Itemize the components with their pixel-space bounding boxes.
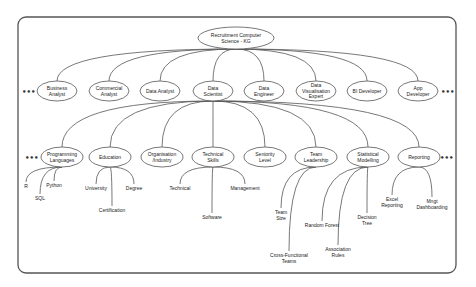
node-root-recruitment-computer-science-kg[interactable]: Recruitment ComputerScience - KG xyxy=(198,27,274,49)
edge xyxy=(57,49,236,81)
edge xyxy=(110,167,112,206)
node-label: Education xyxy=(99,154,121,160)
node-label: Tree xyxy=(362,220,372,226)
node-role-bi-developer[interactable]: BI Developer xyxy=(347,81,387,101)
leaf-degree[interactable]: Degree xyxy=(126,185,143,191)
edge xyxy=(212,167,213,213)
node-attribute-team-leadership[interactable]: TeamLeadership xyxy=(295,147,337,167)
edge xyxy=(162,101,213,147)
node-label: Teams xyxy=(282,258,297,264)
leaf-certification[interactable]: Certification xyxy=(99,207,126,213)
ellipsis-right-attributes: ••• xyxy=(440,154,453,162)
leaf-cross-functional-teams[interactable]: Cross-FunctionalTeams xyxy=(270,252,308,264)
node-label: Size xyxy=(276,215,286,221)
edge xyxy=(236,49,418,81)
node-label: Leadership xyxy=(304,157,329,163)
node-label: Analyst xyxy=(101,91,118,97)
node-label: Dashboarding xyxy=(416,204,447,210)
ellipsis-left-attributes: ••• xyxy=(25,154,38,162)
node-label: University xyxy=(85,185,107,191)
node-label: Developer xyxy=(407,91,430,97)
leaf-mngt-dashboarding[interactable]: MngtDashboarding xyxy=(416,198,447,210)
diagram-frame xyxy=(18,17,456,273)
edge xyxy=(40,167,62,194)
node-label: Software xyxy=(202,214,222,220)
ellipsis-right-roles: ••• xyxy=(441,88,454,96)
node-attribute-programming-languages[interactable]: ProgrammingLanguages xyxy=(41,147,83,167)
node-label: Scientist xyxy=(204,91,224,97)
edge xyxy=(213,167,245,184)
node-label: Reporting xyxy=(408,154,430,160)
node-role-data-engineer[interactable]: DataEngineer xyxy=(244,81,284,101)
knowledge-graph-diagram: Recruitment ComputerScience - KGBusiness… xyxy=(0,0,476,287)
edge xyxy=(236,49,316,81)
edge xyxy=(180,167,213,184)
edge xyxy=(160,49,236,81)
edge xyxy=(62,101,213,147)
node-attribute-technical-skills[interactable]: TechnicalSkills xyxy=(192,147,234,167)
node-label: R xyxy=(24,183,28,189)
edge xyxy=(109,49,236,81)
node-label: Rules xyxy=(332,252,345,258)
node-role-business-analyst[interactable]: BusinessAnalyst xyxy=(37,81,77,101)
edge xyxy=(289,167,316,251)
leaf-software[interactable]: Software xyxy=(202,214,222,220)
node-attribute-education[interactable]: Education xyxy=(89,147,131,167)
node-role-data-visualisation-expert[interactable]: DataVisualisationExpert xyxy=(296,81,336,101)
node-label: Modelling xyxy=(357,157,379,163)
node-label: Expert xyxy=(309,93,324,99)
edge xyxy=(419,167,432,197)
leaf-random-forest[interactable]: Random Forest xyxy=(305,222,340,228)
node-label: Data Analyst xyxy=(146,88,175,94)
edge xyxy=(338,167,368,245)
edge xyxy=(322,167,368,221)
node-label: Certification xyxy=(99,207,126,213)
node-label: Management xyxy=(230,185,260,191)
node-label: Level xyxy=(259,157,271,163)
node-role-app-developer[interactable]: AppDeveloper xyxy=(398,81,438,101)
node-label: Degree xyxy=(126,185,143,191)
edge xyxy=(213,101,265,147)
node-label: Python xyxy=(46,182,62,188)
node-label: Languages xyxy=(50,157,75,163)
node-label: Random Forest xyxy=(305,222,340,228)
edge xyxy=(213,101,368,147)
node-attribute-reporting[interactable]: Reporting xyxy=(398,147,440,167)
leaf-decision-tree[interactable]: DecisionTree xyxy=(357,214,376,226)
edge xyxy=(367,167,368,213)
node-label: Technical xyxy=(170,185,191,191)
nodes: Recruitment ComputerScience - KGBusiness… xyxy=(24,27,448,264)
edge xyxy=(96,167,110,184)
node-label: BI Developer xyxy=(353,88,382,94)
leaf-sql[interactable]: SQL xyxy=(35,195,45,201)
edge xyxy=(281,167,316,208)
node-role-data-scientist[interactable]: DataScientist xyxy=(193,81,233,101)
edge xyxy=(213,101,419,147)
node-label: Science - KG xyxy=(221,38,251,44)
node-attribute-statistical-modelling[interactable]: StatisticalModelling xyxy=(347,147,389,167)
leaf-python[interactable]: Python xyxy=(46,182,62,188)
leaf-technical[interactable]: Technical xyxy=(170,185,191,191)
leaf-r[interactable]: R xyxy=(24,183,28,189)
edge xyxy=(110,167,134,184)
ellipsis-left-roles: ••• xyxy=(22,88,35,96)
edge xyxy=(236,49,264,81)
node-label: SQL xyxy=(35,195,45,201)
leaf-association-rules[interactable]: AssociationRules xyxy=(325,246,351,258)
edge xyxy=(54,167,62,181)
node-label: Reporting xyxy=(381,202,403,208)
leaf-management[interactable]: Management xyxy=(230,185,260,191)
node-attribute-seniority-level[interactable]: SeniorityLevel xyxy=(244,147,286,167)
node-label: Analyst xyxy=(49,91,66,97)
edge xyxy=(110,101,213,147)
node-label: Engineer xyxy=(254,91,274,97)
leaf-team-size[interactable]: TeamSize xyxy=(275,209,287,221)
node-label: Skills xyxy=(207,157,219,163)
node-role-data-analyst[interactable]: Data Analyst xyxy=(140,81,180,101)
edge xyxy=(392,167,419,195)
leaf-excel-reporting[interactable]: ExcelReporting xyxy=(381,196,403,208)
node-label: /Industry xyxy=(152,157,172,163)
node-role-commercial-analyst[interactable]: CommercialAnalyst xyxy=(89,81,129,101)
node-attribute-organisation-industry[interactable]: Organisation/Industry xyxy=(141,147,183,167)
leaf-university[interactable]: University xyxy=(85,185,107,191)
